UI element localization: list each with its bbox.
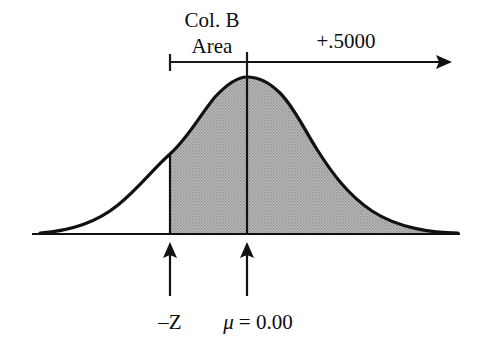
- distribution-diagram: Col. B Area +.5000 –Z μ= 0.00: [0, 0, 479, 343]
- mu-value: = 0.00: [239, 310, 293, 334]
- col-b-label: Col. B: [185, 8, 240, 32]
- area-label: Area: [192, 34, 233, 58]
- normal-curve-figure: Col. B Area +.5000 –Z μ= 0.00: [0, 0, 479, 343]
- mu-symbol: μ: [222, 310, 234, 334]
- right-area-label: +.5000: [316, 29, 375, 53]
- mu-label: μ= 0.00: [222, 310, 292, 334]
- neg-z-label: –Z: [157, 310, 181, 334]
